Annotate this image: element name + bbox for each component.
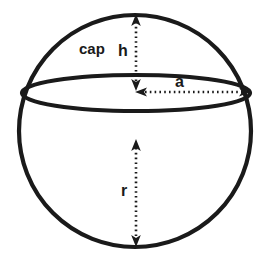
label-h: h	[118, 43, 128, 59]
dimension-line-a	[135, 87, 251, 96]
dimension-line-h	[131, 14, 141, 91]
label-a: a	[175, 74, 184, 90]
sphere-outline-circle	[19, 15, 251, 247]
sphere-diagram-canvas	[0, 0, 269, 264]
dimension-line-r	[131, 139, 141, 247]
label-cap: cap	[79, 41, 105, 56]
label-r: r	[121, 183, 127, 199]
sphere-cap-diagram: cap h a r	[0, 0, 269, 264]
